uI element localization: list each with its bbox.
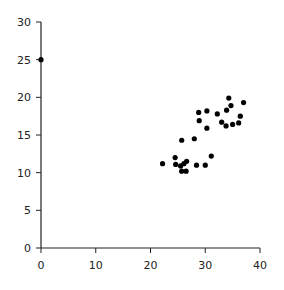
data-point — [241, 100, 246, 105]
data-point — [183, 169, 188, 174]
data-point — [184, 159, 189, 164]
data-point — [238, 114, 243, 119]
data-point — [223, 123, 228, 128]
x-tick-label: 30 — [198, 259, 212, 272]
y-tick-label: 5 — [24, 204, 31, 217]
data-point — [192, 136, 197, 141]
data-point — [197, 118, 202, 123]
data-point — [219, 120, 224, 125]
x-tick-label: 0 — [38, 259, 45, 272]
data-point — [173, 162, 178, 167]
y-tick-label: 0 — [24, 242, 31, 255]
data-point — [204, 108, 209, 113]
data-point — [160, 161, 165, 166]
y-tick-label: 10 — [17, 167, 31, 180]
data-point — [38, 57, 43, 62]
data-point — [194, 163, 199, 168]
data-point — [209, 153, 214, 158]
scatter-chart: 051015202530 010203040 — [0, 0, 284, 290]
data-point — [228, 103, 233, 108]
y-tick-label: 30 — [17, 16, 31, 29]
data-point — [236, 120, 241, 125]
data-point — [226, 95, 231, 100]
data-point — [173, 155, 178, 160]
data-points — [38, 57, 246, 174]
x-tick-label: 20 — [144, 259, 158, 272]
x-tick-label: 40 — [253, 259, 267, 272]
data-point — [203, 163, 208, 168]
y-axis-ticks: 051015202530 — [17, 16, 41, 255]
y-tick-label: 25 — [17, 54, 31, 67]
y-tick-label: 15 — [17, 129, 31, 142]
data-point — [215, 111, 220, 116]
data-point — [179, 138, 184, 143]
data-point — [230, 122, 235, 127]
x-axis-ticks: 010203040 — [38, 248, 268, 272]
data-point — [196, 110, 201, 115]
data-point — [224, 108, 229, 113]
data-point — [204, 126, 209, 131]
x-tick-label: 10 — [89, 259, 103, 272]
y-tick-label: 20 — [17, 91, 31, 104]
